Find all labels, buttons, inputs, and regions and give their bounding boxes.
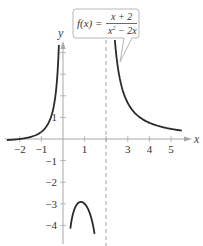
- callout-denominator: x2 − 2x: [107, 25, 137, 36]
- x-axis-arrow-icon: [184, 137, 192, 142]
- denominator-rest: − 2x: [115, 25, 137, 36]
- x-tick-label: 1: [82, 143, 88, 155]
- y-tick-label: −3: [45, 198, 57, 210]
- axis-ticks: −2−113451−1−2−3−4: [14, 53, 174, 232]
- y-tick-label: −1: [45, 155, 57, 167]
- x-tick-label: 4: [147, 143, 153, 155]
- x-tick-label: −1: [36, 143, 48, 155]
- callout-lhs: f(x) =: [77, 17, 102, 30]
- y-axis-arrow-icon: [61, 41, 66, 49]
- curve-branch: [115, 40, 182, 131]
- curve-branch: [70, 202, 94, 234]
- x-tick-label: 5: [168, 143, 174, 155]
- curve-branch: [7, 45, 59, 140]
- y-axis-label: y: [57, 26, 64, 40]
- x-tick-label: 3: [125, 143, 131, 155]
- y-tick-label: −4: [45, 219, 57, 231]
- x-tick-label: −2: [14, 143, 26, 155]
- function-curves: [7, 40, 182, 234]
- function-graph: x y −2−113451−1−2−3−4 f(x) = x + 2 x2 − …: [0, 0, 203, 246]
- x-axis-label: x: [193, 132, 200, 146]
- callout-numerator: x + 2: [110, 11, 132, 22]
- y-tick-label: −2: [45, 176, 57, 188]
